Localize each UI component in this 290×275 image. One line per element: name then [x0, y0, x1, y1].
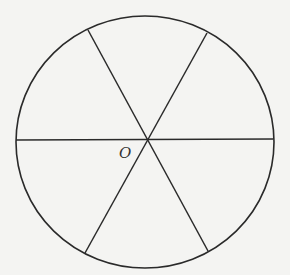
- center-label: O: [119, 144, 131, 162]
- diameter-horizontal: [16, 139, 273, 140]
- circle-diagram: O: [0, 0, 290, 275]
- diameter-upper-right-to-lower-left: [85, 33, 207, 253]
- circle: [16, 16, 274, 268]
